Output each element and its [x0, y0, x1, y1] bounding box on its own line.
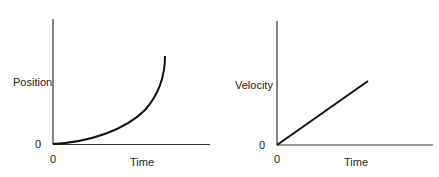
x-axis-label: Time	[130, 156, 154, 168]
position-curve	[53, 56, 165, 144]
y-origin-label: 0	[259, 139, 265, 151]
velocity-line	[277, 81, 368, 145]
y-axis-label: Velocity	[235, 79, 273, 91]
y-axis-label: Position	[13, 76, 52, 88]
position-time-chart: Position 0 0 Time	[13, 19, 210, 168]
velocity-time-chart: Velocity 0 0 Time	[235, 21, 433, 168]
y-origin-label: 0	[35, 138, 41, 150]
x-axis-label: Time	[344, 156, 368, 168]
x-origin-label: 0	[274, 153, 280, 165]
charts-canvas: Position 0 0 Time Velocity 0 0 Time	[0, 0, 439, 177]
x-origin-label: 0	[50, 153, 56, 165]
